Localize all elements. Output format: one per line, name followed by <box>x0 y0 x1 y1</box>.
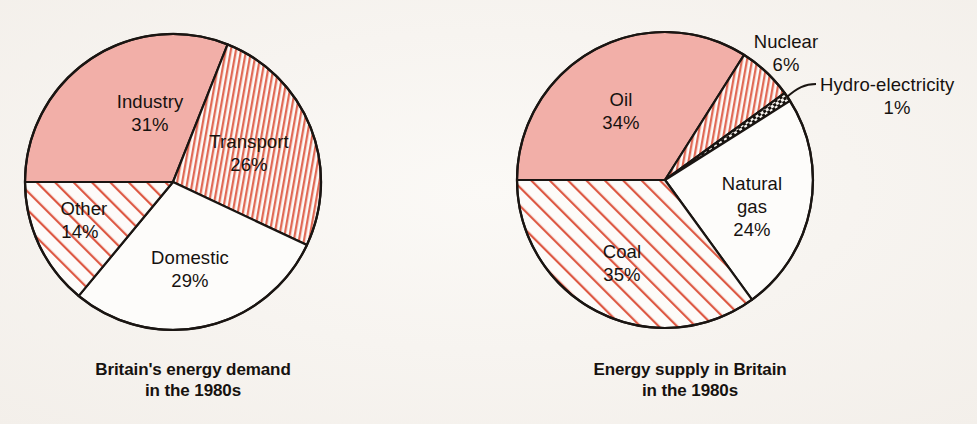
right-caption-line-1: Energy supply in Britain <box>593 360 786 379</box>
label-nuclear-value: 6% <box>773 54 800 75</box>
label-transport-value: 26% <box>230 154 267 175</box>
label-hydro-value: 1% <box>884 97 911 118</box>
left-caption-line-2: in the 1980s <box>145 381 241 400</box>
label-coal-name: Coal <box>603 241 641 262</box>
label-nuclear-name: Nuclear <box>754 31 818 52</box>
label-domestic-value: 29% <box>171 270 208 291</box>
label-hydro-name: Hydro-electricity <box>820 74 955 95</box>
label-coal-value: 35% <box>603 264 640 285</box>
label-other-name: Other <box>61 198 108 219</box>
label-oil-value: 34% <box>602 112 639 133</box>
label-natural-gas-name-line-1: Natural <box>722 173 782 194</box>
left-caption-line-1: Britain's energy demand <box>95 360 290 379</box>
energy-pie-charts-figure: Industry 31% Transport 26% Domestic 29% … <box>0 0 977 424</box>
label-other-value: 14% <box>61 221 98 242</box>
label-domestic-name: Domestic <box>151 247 229 268</box>
label-natural-gas-value: 24% <box>733 219 770 240</box>
label-industry-name: Industry <box>117 91 184 112</box>
right-caption-line-2: in the 1980s <box>642 381 738 400</box>
label-natural-gas-name-line-2: gas <box>737 196 767 217</box>
label-transport-name: Transport <box>209 131 288 152</box>
label-industry-value: 31% <box>131 114 168 135</box>
label-oil-name: Oil <box>610 89 633 110</box>
